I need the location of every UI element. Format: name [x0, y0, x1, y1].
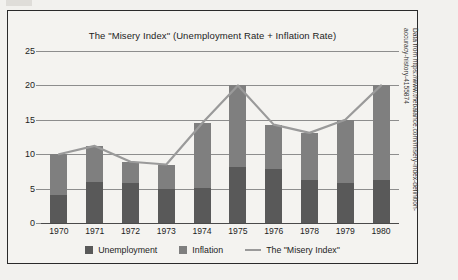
source-credit-line-2: accuracy-history-4155874	[402, 28, 411, 260]
bar-segment-inflation-1974	[194, 123, 211, 188]
bar-1975	[229, 85, 246, 223]
y-axis-label-25: 25	[25, 46, 35, 56]
page-artifact	[6, 0, 32, 6]
y-axis-label-5: 5	[30, 184, 35, 194]
bar-segment-unemployment-1980	[373, 180, 390, 223]
bar-segment-unemployment-1970	[50, 195, 67, 223]
y-tick-mark-25	[36, 51, 41, 52]
y-axis-label-10: 10	[25, 149, 35, 159]
source-credit: Data from https://www.thebalance.com/mis…	[390, 28, 420, 260]
chart-title: The "Misery Index" (Unemployment Rate + …	[8, 30, 417, 41]
bar-segment-inflation-1975	[229, 85, 246, 167]
y-axis-label-0: 0	[30, 218, 35, 228]
y-tick-mark-5	[36, 189, 41, 190]
bar-segment-unemployment-1972	[122, 183, 139, 223]
bar-segment-unemployment-1978	[301, 180, 318, 223]
legend-swatch-unemployment	[85, 246, 93, 254]
x-axis-label-1972: 1972	[121, 226, 140, 236]
bar-segment-unemployment-1979	[337, 183, 354, 223]
x-axis-label-1973: 1973	[157, 226, 176, 236]
bar-1971	[86, 146, 103, 223]
bar-segment-unemployment-1974	[194, 188, 211, 223]
bar-1978	[301, 133, 318, 223]
bar-segment-inflation-1973	[158, 165, 175, 190]
bar-1973	[158, 165, 175, 223]
bar-segment-unemployment-1973	[158, 189, 175, 223]
bar-segment-inflation-1978	[301, 133, 318, 180]
bar-segment-inflation-1971	[86, 146, 103, 182]
misery-index-line	[59, 85, 381, 164]
x-axis-label-1978: 1978	[300, 226, 319, 236]
source-credit-line-1: Data from https://www.thebalance.com/mis…	[411, 28, 420, 260]
y-tick-mark-15	[36, 120, 41, 121]
x-axis-label-1975: 1975	[228, 226, 247, 236]
bar-segment-unemployment-1975	[229, 167, 246, 223]
bar-segment-inflation-1979	[337, 120, 354, 183]
screenshot-root: The "Misery Index" (Unemployment Rate + …	[0, 0, 458, 280]
bar-1979	[337, 120, 354, 223]
legend-line-misery-index	[245, 249, 261, 251]
x-axis-label-1974: 1974	[193, 226, 212, 236]
bar-segment-inflation-1972	[122, 162, 139, 183]
plot-area: 0510152025	[41, 51, 399, 223]
legend-label-inflation: Inflation	[192, 245, 223, 255]
legend-swatch-inflation	[179, 246, 187, 254]
y-tick-mark-10	[36, 154, 41, 155]
gridline-25	[41, 51, 399, 52]
bar-1972	[122, 162, 139, 223]
bar-1976	[265, 125, 282, 223]
bar-segment-inflation-1970	[50, 154, 67, 195]
chart-legend: Unemployment Inflation The "Misery Index…	[8, 245, 417, 255]
bar-segment-inflation-1980	[373, 85, 390, 179]
x-axis	[41, 223, 399, 224]
bar-1980	[373, 85, 390, 223]
bar-segment-inflation-1976	[265, 125, 282, 170]
x-axis-label-1976: 1976	[264, 226, 283, 236]
y-axis-label-15: 15	[25, 115, 35, 125]
bar-1974	[194, 123, 211, 223]
chart-frame: The "Misery Index" (Unemployment Rate + …	[7, 10, 418, 264]
legend-item-unemployment: Unemployment	[85, 245, 157, 255]
y-axis-label-20: 20	[25, 80, 35, 90]
gridline-20	[41, 85, 399, 86]
x-axis-label-1979: 1979	[336, 226, 355, 236]
bar-1970	[50, 154, 67, 223]
bar-segment-unemployment-1976	[265, 169, 282, 223]
x-axis-label-1980: 1980	[372, 226, 391, 236]
legend-item-misery-index: The "Misery Index"	[245, 245, 340, 255]
bar-segment-unemployment-1971	[86, 182, 103, 223]
legend-label-unemployment: Unemployment	[98, 245, 157, 255]
x-axis-label-1970: 1970	[49, 226, 68, 236]
legend-item-inflation: Inflation	[179, 245, 223, 255]
legend-label-misery-index: The "Misery Index"	[266, 245, 340, 255]
y-tick-mark-20	[36, 85, 41, 86]
x-axis-label-1971: 1971	[85, 226, 104, 236]
